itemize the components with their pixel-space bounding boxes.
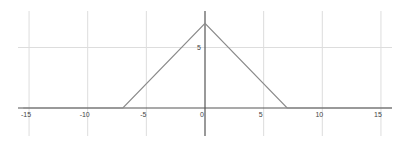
x-tick-label: -10 [80,111,90,118]
x-tick-label: 15 [374,111,382,118]
y-tick-label: 5 [197,44,201,51]
x-tick-label: -15 [21,111,31,118]
x-tick-label: -5 [140,111,146,118]
axes [18,11,392,136]
data-series [23,23,392,108]
x-tick-label: 5 [259,111,263,118]
tick-labels: -15-10-50510155 [21,44,382,118]
x-tick-label: 0 [200,111,204,118]
function-plot: -15-10-50510155 [0,0,409,145]
x-tick-label: 10 [315,111,323,118]
function-line [23,23,392,108]
